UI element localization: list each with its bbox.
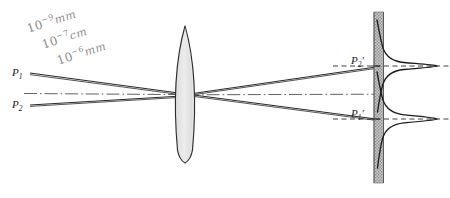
label-p1: P1 — [12, 67, 22, 81]
label-p1-letter: P — [12, 66, 19, 78]
label-p1-prime-letter: P — [351, 107, 358, 119]
label-p1-prime-mark: ′ — [361, 107, 363, 119]
label-p2-prime: P2′ — [351, 55, 364, 69]
label-p1-subscript: 1 — [19, 72, 23, 81]
label-p2-subscript: 2 — [19, 104, 23, 113]
label-p1-prime: P1′ — [351, 108, 364, 122]
label-p2-prime-letter: P — [351, 54, 358, 66]
label-p2: P2 — [12, 99, 22, 113]
ray-bundle-p1 — [30, 73, 376, 120]
ray-bundle-p2 — [30, 67, 376, 106]
optics-figure: P1 P2 P2′ P1′ 10−9mm 10−7cm 10−6mm — [0, 0, 450, 198]
biconvex-lens — [175, 26, 194, 163]
label-p2-prime-mark: ′ — [361, 54, 363, 66]
diffraction-intensity-curve-lower — [377, 72, 437, 168]
label-p2-letter: P — [12, 98, 19, 110]
